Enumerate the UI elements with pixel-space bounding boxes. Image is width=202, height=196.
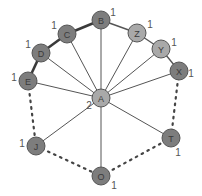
degree-label: 1 [11,72,17,83]
node-a: A2 [86,89,110,111]
node-label: O [97,172,104,182]
edge-a-z [101,33,137,98]
node-y: Y1 [152,37,177,59]
node-label: Y [158,45,164,55]
degree-label: 1 [25,39,31,50]
node-label: D [38,49,45,59]
node-label: J [34,142,39,152]
node-b: B1 [92,7,116,30]
node-label: X [176,67,182,77]
edge-a-t [101,98,171,138]
degree-label: 1 [175,147,181,158]
degree-label: 1 [111,180,117,191]
node-e: E1 [11,72,37,91]
edge-a-x [101,71,179,98]
node-label: A [98,94,104,104]
degree-label: 1 [19,138,25,149]
degree-label: 1 [171,37,177,48]
edge-o-t [101,138,171,176]
node-o: O1 [92,167,117,191]
node-label: Z [134,29,140,39]
edge-e-j [28,81,36,146]
edge-a-y [101,49,161,98]
edge-a-c [67,34,101,98]
node-j: J1 [19,137,45,155]
node-label: B [98,16,104,26]
degree-label: 2 [86,100,92,111]
degree-label: 1 [147,19,153,30]
node-x: X1 [170,62,194,80]
graph-diagram: A2B1C1D1E1Z1Y1X1J1O1T1 [0,0,202,196]
node-label: C [64,30,71,40]
degree-label: 1 [51,20,57,31]
node-label: E [25,77,31,87]
node-z: Z1 [128,19,153,43]
node-label: T [168,134,174,144]
edge-t-x [171,71,179,138]
node-t: T1 [162,129,181,158]
edge-j-o [36,146,101,176]
node-d: D1 [25,39,50,63]
degree-label: 1 [188,68,194,79]
node-c: C1 [51,20,76,44]
node-layer: A2B1C1D1E1Z1Y1X1J1O1T1 [11,7,194,191]
degree-label: 1 [110,7,116,18]
